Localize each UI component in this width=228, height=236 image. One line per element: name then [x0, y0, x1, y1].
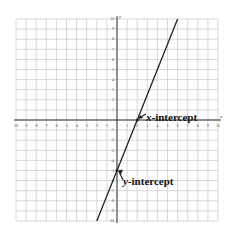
svg-text:9: 9 — [112, 27, 114, 31]
x-intercept-text: -intercept — [152, 111, 198, 123]
svg-text:-8: -8 — [35, 124, 38, 128]
svg-text:1: 1 — [126, 124, 128, 128]
svg-text:-1: -1 — [111, 128, 114, 132]
svg-text:-2: -2 — [111, 138, 114, 142]
svg-text:-4: -4 — [75, 124, 78, 128]
svg-text:-7: -7 — [45, 124, 48, 128]
y-intercept-text: -intercept — [128, 175, 174, 187]
svg-text:x: x — [219, 114, 223, 119]
svg-text:-9: -9 — [111, 209, 114, 213]
svg-text:-3: -3 — [85, 124, 88, 128]
svg-text:8: 8 — [197, 124, 199, 128]
svg-text:4: 4 — [157, 124, 159, 128]
svg-text:-4: -4 — [111, 159, 114, 163]
svg-text:-5: -5 — [111, 169, 114, 173]
svg-text:7: 7 — [112, 48, 114, 52]
svg-text:y: y — [118, 14, 122, 19]
svg-text:3: 3 — [146, 124, 148, 128]
svg-text:7: 7 — [187, 124, 189, 128]
svg-text:8: 8 — [112, 37, 114, 41]
svg-text:6: 6 — [177, 124, 179, 128]
svg-text:10: 10 — [216, 124, 220, 128]
svg-text:-10: -10 — [14, 124, 19, 128]
svg-text:-9: -9 — [25, 124, 28, 128]
svg-text:4: 4 — [112, 78, 114, 82]
svg-text:9: 9 — [207, 124, 209, 128]
svg-text:-1: -1 — [105, 124, 108, 128]
svg-text:-5: -5 — [65, 124, 68, 128]
svg-text:2: 2 — [136, 124, 138, 128]
svg-text:2: 2 — [112, 98, 114, 102]
svg-text:5: 5 — [112, 68, 114, 72]
svg-text:-7: -7 — [111, 189, 114, 193]
svg-text:-8: -8 — [111, 199, 114, 203]
svg-text:-3: -3 — [111, 149, 114, 153]
svg-text:5: 5 — [167, 124, 169, 128]
svg-text:-10: -10 — [109, 219, 114, 223]
svg-text:-2: -2 — [95, 124, 98, 128]
svg-text:-6: -6 — [55, 124, 58, 128]
x-intercept-label: x-intercept — [146, 111, 197, 123]
svg-text:3: 3 — [112, 88, 114, 92]
svg-text:1: 1 — [112, 108, 114, 112]
svg-text:6: 6 — [112, 58, 114, 62]
y-intercept-label: y-intercept — [123, 175, 174, 187]
svg-text:10: 10 — [111, 17, 115, 21]
